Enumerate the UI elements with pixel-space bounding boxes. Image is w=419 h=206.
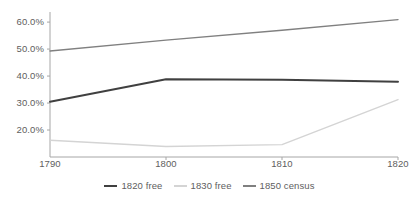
legend-swatch-icon xyxy=(243,185,256,187)
y-axis-tick-label: 50.0% xyxy=(4,44,44,54)
legend-entry-1830-free[interactable]: 1830 free xyxy=(174,180,232,191)
series-line-1850-census xyxy=(50,20,398,51)
legend-label: 1820 free xyxy=(121,180,162,191)
legend-entry-1850-census[interactable]: 1850 census xyxy=(243,180,315,191)
x-axis-tick-label: 1810 xyxy=(257,158,307,169)
y-axis-tick-label: 30.0% xyxy=(4,98,44,108)
series-lines xyxy=(50,20,398,147)
series-line-1820-free xyxy=(50,79,398,101)
legend-entry-1820-free[interactable]: 1820 free xyxy=(104,180,162,191)
y-axis-tick-label: 40.0% xyxy=(4,71,44,81)
tick-marks xyxy=(47,22,398,160)
legend-label: 1830 free xyxy=(191,180,232,191)
legend-swatch-icon xyxy=(174,185,187,187)
x-axis-tick-label: 1800 xyxy=(141,158,191,169)
x-axis-tick-label: 1820 xyxy=(373,158,419,169)
x-axis-tick-label: 1790 xyxy=(25,158,75,169)
legend-label: 1850 census xyxy=(260,180,315,191)
y-axis-tick-label: 20.0% xyxy=(4,125,44,135)
series-line-1830-free xyxy=(50,100,398,147)
y-axis-tick-label: 60.0% xyxy=(4,17,44,27)
chart-legend: 1820 free1830 free1850 census xyxy=(0,180,419,191)
line-chart: 20.0%30.0%40.0%50.0%60.0% 17901800181018… xyxy=(0,0,419,206)
legend-swatch-icon xyxy=(104,185,117,187)
plot-area xyxy=(0,0,419,206)
axis-group xyxy=(50,12,398,157)
